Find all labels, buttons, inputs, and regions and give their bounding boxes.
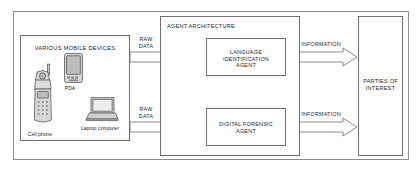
digital-forensic-agent-label: DIGITAL FORENSIC AGENT (207, 121, 285, 134)
flow-label-raw-data-bottom: RAW DATA (126, 106, 166, 120)
flow-label-raw-data-top: RAW DATA (126, 36, 166, 50)
cell-phone-caption: Cell phone (18, 131, 62, 137)
laptop-icon (83, 96, 119, 127)
agent-architecture-label: AGENT ARCHITECTURE (167, 23, 235, 30)
diagram-canvas: VARIOUS MOBILE DEVICES Cell phone (0, 0, 420, 193)
cell-phone-icon (31, 62, 57, 132)
node-digital-forensic-agent: DIGITAL FORENSIC AGENT (206, 108, 286, 146)
flow-label-information-bottom: INFORMATION (294, 111, 348, 118)
laptop-caption: Laptop computer (72, 125, 128, 131)
devices-group-label: VARIOUS MOBILE DEVICES (21, 45, 129, 52)
group-parties-of-interest: PARTIES OF INTEREST (358, 16, 403, 156)
pda-icon (63, 52, 85, 88)
node-language-identification-agent: LANGUAGE IDENTIFICATION AGENT (206, 38, 286, 76)
parties-of-interest-label: PARTIES OF INTEREST (359, 78, 402, 92)
pda-caption: PDA (53, 85, 87, 91)
flow-label-information-top: INFORMATION (294, 41, 348, 48)
language-identification-agent-label: LANGUAGE IDENTIFICATION AGENT (207, 49, 285, 69)
